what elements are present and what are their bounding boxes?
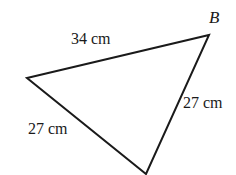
side-label-left: 27 cm — [28, 121, 68, 137]
triangle-outline — [27, 35, 209, 174]
vertex-label-b: B — [209, 9, 219, 26]
side-label-top: 34 cm — [71, 31, 111, 47]
side-label-right: 27 cm — [183, 95, 223, 111]
triangle-figure: 34 cm 27 cm 27 cm B — [0, 0, 236, 175]
triangle-shape — [0, 0, 236, 175]
